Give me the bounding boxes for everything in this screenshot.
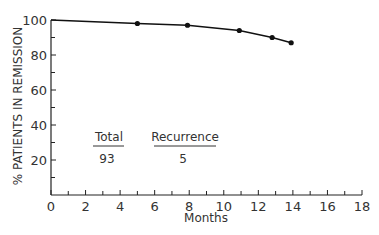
data-point-marker	[270, 35, 275, 40]
total-label: Total	[94, 130, 123, 144]
y-tick-label: 80	[30, 48, 47, 63]
x-tick-label: 12	[250, 199, 267, 214]
x-tick-label: 18	[354, 199, 371, 214]
x-tick-label: 0	[47, 199, 55, 214]
recurrence-label: Recurrence	[151, 130, 219, 144]
x-tick-label: 2	[81, 199, 89, 214]
y-tick-label: 100	[22, 13, 47, 28]
annotation-table: Total 93 Recurrence 5	[93, 130, 219, 166]
data-point-marker	[289, 40, 294, 45]
y-tick-label: 40	[30, 118, 47, 133]
x-tick-label: 6	[151, 199, 159, 214]
y-tick-label: 20	[30, 153, 47, 168]
x-tick-label: 16	[319, 199, 336, 214]
data-series	[51, 20, 294, 45]
x-tick-label: 4	[116, 199, 124, 214]
x-tick-label: 14	[285, 199, 302, 214]
axes	[51, 20, 362, 195]
remission-chart: 02468101214161820406080100 Months % PATI…	[0, 0, 379, 235]
remission-line	[51, 20, 291, 43]
x-axis-title: Months	[184, 211, 228, 225]
y-axis-title: % PATIENTS IN REMISSION	[11, 27, 25, 186]
data-point-marker	[185, 23, 190, 28]
total-value: 93	[99, 152, 114, 166]
ticks: 02468101214161820406080100	[22, 13, 370, 214]
data-point-marker	[135, 21, 140, 26]
recurrence-value: 5	[179, 152, 187, 166]
y-tick-label: 60	[30, 83, 47, 98]
data-point-marker	[237, 28, 242, 33]
